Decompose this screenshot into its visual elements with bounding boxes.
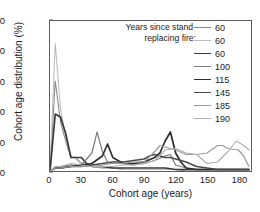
legend-line-swatch-icon: [194, 40, 211, 41]
legend-item[interactable]: 115: [194, 74, 229, 85]
legend-title-line-2: replacing fire:: [144, 33, 196, 43]
x-tick-label: 90: [139, 174, 150, 185]
x-tick-label: 180: [231, 174, 247, 185]
x-tick-label: 60: [107, 174, 118, 185]
legend-item-label: 115: [215, 75, 229, 85]
x-tick-label: 120: [168, 174, 184, 185]
legend-line-swatch-icon: [194, 118, 211, 119]
figure-chart-cohort-age-distribution: Cohort age distribution (%) Cohort age (…: [0, 0, 260, 212]
legend-item[interactable]: 100: [194, 61, 230, 72]
legend-line-swatch-icon: [194, 105, 211, 106]
legend-title-line-1: Years since stand-: [126, 22, 196, 32]
x-tick-label: 0: [46, 174, 51, 185]
legend-item[interactable]: 185: [194, 100, 230, 111]
legend-item[interactable]: 60: [194, 35, 225, 46]
legend-item-label: 60: [215, 23, 225, 33]
x-axis-title: Cohort age (years): [49, 188, 252, 199]
legend-line-swatch-icon: [194, 79, 211, 80]
y-axis-title: Cohort age distribution (%): [13, 2, 24, 162]
x-tick-label: 150: [200, 174, 216, 185]
legend-item[interactable]: 60: [194, 48, 225, 59]
legend-item[interactable]: 60: [194, 22, 225, 33]
x-tick-label: 30: [75, 174, 86, 185]
legend-item-label: 185: [215, 101, 230, 111]
legend-line-swatch-icon: [194, 27, 211, 28]
legend-line-swatch-icon: [194, 92, 211, 93]
legend-line-swatch-icon: [194, 66, 211, 67]
legend-title: Years since stand- replacing fire:: [112, 22, 196, 43]
y-tick-label: 60: [0, 75, 5, 86]
y-tick-label: 100: [0, 15, 5, 26]
legend-item-label: 60: [215, 36, 225, 46]
y-tick-label: 40: [0, 106, 5, 117]
legend-line-swatch-icon: [194, 53, 211, 54]
legend: Years since stand- replacing fire: 60606…: [134, 20, 252, 124]
y-tick-label: 20: [0, 136, 5, 147]
legend-item-label: 100: [215, 62, 230, 72]
legend-item-label: 190: [215, 114, 230, 124]
legend-item[interactable]: 145: [194, 87, 230, 98]
legend-item-label: 60: [215, 49, 225, 59]
y-tick-label: 80: [0, 45, 5, 56]
legend-item-label: 145: [215, 88, 230, 98]
legend-item[interactable]: 190: [194, 113, 230, 124]
y-tick-label: 0: [0, 167, 5, 178]
